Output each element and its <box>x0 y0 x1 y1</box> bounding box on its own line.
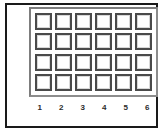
cell-square[interactable] <box>55 54 72 71</box>
grid-cell-r3c6[interactable] <box>134 52 154 73</box>
column-label-4: 4 <box>94 103 116 113</box>
grid-cell-r3c3[interactable] <box>73 52 93 73</box>
cell-square[interactable] <box>75 33 92 50</box>
cell-square[interactable] <box>135 13 152 30</box>
grid-cell-r4c1[interactable] <box>33 73 53 94</box>
column-label-2: 2 <box>51 103 73 113</box>
button-grid-panel <box>29 7 158 97</box>
cell-square[interactable] <box>95 74 112 91</box>
cell-square[interactable] <box>55 13 72 30</box>
grid-cell-r2c5[interactable] <box>114 32 134 53</box>
screenshot-root: 1 2 3 4 5 6 <box>0 0 164 131</box>
cell-square[interactable] <box>115 74 132 91</box>
column-label-strip: 1 2 3 4 5 6 <box>29 101 158 115</box>
grid-cell-r4c5[interactable] <box>114 73 134 94</box>
cell-square[interactable] <box>35 74 52 91</box>
cell-square[interactable] <box>135 54 152 71</box>
grid-cell-r4c3[interactable] <box>73 73 93 94</box>
cell-square[interactable] <box>135 33 152 50</box>
grid-cell-r4c4[interactable] <box>93 73 113 94</box>
grid-cell-r2c4[interactable] <box>93 32 113 53</box>
cell-square[interactable] <box>115 33 132 50</box>
cell-square[interactable] <box>115 13 132 30</box>
column-label-3: 3 <box>72 103 94 113</box>
cell-square[interactable] <box>75 74 92 91</box>
cell-square[interactable] <box>95 13 112 30</box>
grid-cell-r1c2[interactable] <box>53 11 73 32</box>
grid-cell-r2c3[interactable] <box>73 32 93 53</box>
grid-cell-r2c6[interactable] <box>134 32 154 53</box>
grid-cell-r1c5[interactable] <box>114 11 134 32</box>
grid-cell-r3c2[interactable] <box>53 52 73 73</box>
grid-cell-r1c4[interactable] <box>93 11 113 32</box>
grid-cell-r3c5[interactable] <box>114 52 134 73</box>
cell-square[interactable] <box>95 33 112 50</box>
cell-square[interactable] <box>115 54 132 71</box>
grid-cell-r1c1[interactable] <box>33 11 53 32</box>
button-grid <box>31 9 156 95</box>
cell-square[interactable] <box>75 13 92 30</box>
grid-cell-r3c4[interactable] <box>93 52 113 73</box>
grid-cell-r1c6[interactable] <box>134 11 154 32</box>
grid-cell-r4c2[interactable] <box>53 73 73 94</box>
grid-cell-r2c1[interactable] <box>33 32 53 53</box>
cell-square[interactable] <box>75 54 92 71</box>
cell-square[interactable] <box>55 74 72 91</box>
cell-square[interactable] <box>55 33 72 50</box>
grid-cell-r4c6[interactable] <box>134 73 154 94</box>
cell-square[interactable] <box>35 13 52 30</box>
grid-cell-r3c1[interactable] <box>33 52 53 73</box>
cell-square[interactable] <box>35 33 52 50</box>
cell-square[interactable] <box>95 54 112 71</box>
column-label-1: 1 <box>29 103 51 113</box>
cell-square[interactable] <box>35 54 52 71</box>
grid-cell-r1c3[interactable] <box>73 11 93 32</box>
grid-cell-r2c2[interactable] <box>53 32 73 53</box>
outer-frame: 1 2 3 4 5 6 <box>5 3 158 128</box>
column-label-5: 5 <box>115 103 137 113</box>
cell-square[interactable] <box>135 74 152 91</box>
column-label-6: 6 <box>137 103 159 113</box>
